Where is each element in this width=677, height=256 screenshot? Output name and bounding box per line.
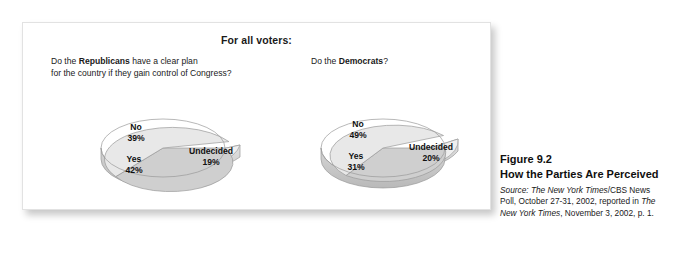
- pie-chart-democrats-svg: [283, 101, 483, 196]
- pie-chart-republicans-svg: [63, 101, 263, 196]
- source-end: , November 3, 2002, p. 1.: [560, 208, 654, 218]
- source-publication-2a: The: [641, 196, 655, 206]
- pie-chart-democrats: No 49% Yes 31% Undecided 20%: [283, 101, 483, 196]
- panel-title: For all voters:: [23, 34, 490, 46]
- source-mid: /CBS News: [608, 185, 650, 195]
- source-publication-1: The New York Times: [531, 185, 608, 195]
- figure-caption: Figure 9.2 How the Parties Are Perceived…: [500, 152, 670, 219]
- question-democrats: Do the Democrats?: [311, 56, 501, 68]
- question-republicans-pre: Do the: [51, 56, 79, 66]
- figure-number: Figure 9.2: [500, 152, 670, 167]
- question-republicans-post: have a clear plan: [130, 56, 198, 66]
- question-democrats-pre: Do the: [311, 56, 339, 66]
- question-democrats-bold: Democrats: [339, 56, 383, 66]
- source-publication-2b: New York Times: [500, 208, 560, 218]
- question-republicans-bold: Republicans: [79, 56, 130, 66]
- pie-chart-republicans: No 39% Yes 42% Undecided 19%: [63, 101, 263, 196]
- question-democrats-post: ?: [383, 56, 388, 66]
- source-line2: Poll, October 27-31, 2002, reported in: [500, 196, 641, 206]
- figure-panel: For all voters: Do the Republicans have …: [22, 22, 491, 210]
- figure-title: How the Parties Are Perceived: [500, 167, 670, 182]
- figure-source: Source: The New York Times/CBS News Poll…: [500, 185, 670, 219]
- question-republicans: Do the Republicans have a clear plan for…: [51, 56, 261, 79]
- source-label: Source:: [500, 185, 531, 195]
- question-republicans-line2: for the country if they gain control of …: [51, 68, 232, 78]
